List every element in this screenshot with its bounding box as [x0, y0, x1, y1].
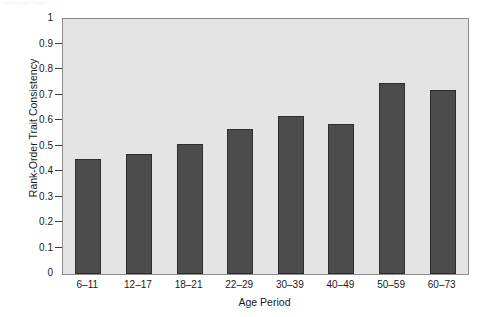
y-axis-tick-label: 0 [47, 266, 53, 279]
y-axis-tick-mark [55, 68, 62, 69]
x-axis-tick-label: 12–17 [113, 278, 164, 291]
y-axis-tick-mark [55, 247, 62, 248]
y-axis-tick-mark [55, 43, 62, 44]
bar [126, 154, 152, 274]
x-axis-tick-label: 30–39 [265, 278, 316, 291]
y-axis-tick-label: 0.5 [39, 139, 53, 152]
y-axis-tick-label: 0.1 [39, 241, 53, 254]
bar [430, 90, 456, 274]
y-axis-tick-mark [55, 196, 62, 197]
bar [328, 124, 354, 274]
bar [278, 116, 304, 274]
y-axis-tick-label: 1 [47, 11, 53, 24]
y-axis-tick-mark [55, 119, 62, 120]
y-axis-tick-mark [55, 94, 62, 95]
plot-area [62, 18, 469, 275]
x-axis: Age Period 6–1112–1718–2122–2930–3940–49… [62, 274, 467, 314]
x-axis-tick-label: 60–73 [416, 278, 467, 291]
y-axis-tick-mark [55, 221, 62, 222]
bar-chart-figure: Academic Press 00.10.20.30.40.50.60.70.8… [0, 0, 477, 317]
y-axis-tick-label: 0.9 [39, 37, 53, 50]
bar [177, 144, 203, 274]
y-axis-tick-label: 0.6 [39, 113, 53, 126]
x-axis-tick-label: 40–49 [315, 278, 366, 291]
bar [379, 83, 405, 274]
x-axis-tick-label: 6–11 [62, 278, 113, 291]
y-axis-tick-label: 0.8 [39, 62, 53, 75]
x-axis-label: Age Period [62, 296, 467, 308]
x-axis-tick-label: 22–29 [214, 278, 265, 291]
y-axis-tick-label: 0.7 [39, 88, 53, 101]
bar [227, 129, 253, 274]
y-axis-label: Rank-Order Trait Consistency [27, 1, 39, 256]
y-axis-tick-label: 0.3 [39, 190, 53, 203]
bar [75, 159, 101, 274]
y-axis-tick-label: 0.4 [39, 164, 53, 177]
bars-layer [63, 19, 468, 274]
y-axis-tick-mark [55, 170, 62, 171]
y-axis-tick-mark [55, 145, 62, 146]
y-axis-tick-label: 0.2 [39, 215, 53, 228]
x-axis-tick-label: 50–59 [366, 278, 417, 291]
x-axis-tick-label: 18–21 [163, 278, 214, 291]
